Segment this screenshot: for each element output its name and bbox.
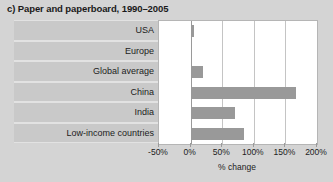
figure-background: c) Paper and paperboard, 1990–2005 USA E… bbox=[0, 0, 333, 182]
category-row: China bbox=[14, 82, 158, 103]
bar bbox=[191, 25, 194, 37]
bar bbox=[191, 66, 204, 78]
x-axis-tick-label: 50% bbox=[213, 147, 230, 157]
bar-row bbox=[159, 62, 317, 83]
x-axis-tick-label: -50% bbox=[148, 147, 168, 157]
bar bbox=[191, 87, 296, 99]
plot-area bbox=[158, 20, 318, 145]
plot-inner bbox=[159, 21, 317, 144]
x-axis-tick-label: 100% bbox=[242, 147, 264, 157]
category-label: Low-income countries bbox=[66, 128, 158, 138]
bar-row bbox=[159, 124, 317, 145]
category-label: Global average bbox=[93, 66, 158, 76]
bar bbox=[191, 128, 244, 140]
category-row: India bbox=[14, 102, 158, 123]
bar bbox=[191, 107, 236, 119]
x-axis-tick-label: 200% bbox=[305, 147, 327, 157]
category-label: China bbox=[130, 87, 158, 97]
category-row: Low-income countries bbox=[14, 123, 158, 144]
category-row: Europe bbox=[14, 41, 158, 62]
x-axis-title: % change bbox=[158, 162, 316, 172]
category-label-column: USA Europe Global average China India Lo… bbox=[14, 20, 158, 143]
x-axis-tick-label: 150% bbox=[274, 147, 296, 157]
category-label: India bbox=[134, 107, 158, 117]
bar-row bbox=[159, 103, 317, 124]
bar-row bbox=[159, 83, 317, 104]
category-row: USA bbox=[14, 20, 158, 41]
category-label: USA bbox=[135, 25, 158, 35]
chart-figure: c) Paper and paperboard, 1990–2005 USA E… bbox=[0, 0, 333, 182]
x-axis-tick-label: 0% bbox=[183, 147, 195, 157]
chart-title: c) Paper and paperboard, 1990–2005 bbox=[7, 3, 168, 14]
bar-row bbox=[159, 42, 317, 63]
category-label: Europe bbox=[125, 46, 158, 56]
category-row: Global average bbox=[14, 61, 158, 82]
bar-row bbox=[159, 21, 317, 42]
